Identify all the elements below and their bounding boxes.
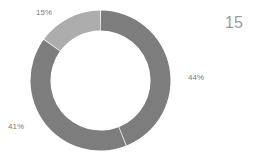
donut-slice-41[interactable] xyxy=(31,40,126,151)
donut-chart: 15% 44% 41% 15 xyxy=(0,0,255,164)
donut-slice-44[interactable] xyxy=(101,11,171,146)
donut-chart-svg xyxy=(0,0,255,164)
corner-number: 15 xyxy=(225,15,243,31)
donut-slice-15[interactable] xyxy=(44,11,100,51)
donut-slice-label-41: 41% xyxy=(8,123,24,131)
donut-slice-label-44: 44% xyxy=(188,74,204,82)
donut-slice-label-15: 15% xyxy=(36,9,52,17)
